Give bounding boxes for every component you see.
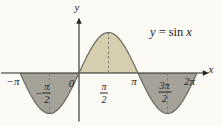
sine-plot xyxy=(0,0,222,126)
tick-label-three-pi-over-2: 3π2 xyxy=(158,81,171,104)
fraction-denominator: 2 xyxy=(44,93,49,104)
fraction-denominator: 2 xyxy=(162,93,167,104)
equation-argument: x xyxy=(186,26,192,39)
x-axis-label: x xyxy=(209,64,214,75)
fraction-numerator: π xyxy=(100,82,108,94)
tick-label-pi: π xyxy=(131,76,137,87)
equation-equals: = xyxy=(159,26,166,39)
origin-label: 0 xyxy=(69,78,75,89)
equation-lhs: y xyxy=(150,26,156,39)
fraction-numerator: 3π xyxy=(158,81,171,93)
fraction: π2 xyxy=(100,82,108,105)
tick-label-two-pi: 2π xyxy=(184,76,195,87)
equation-function: sin xyxy=(169,26,184,39)
equation-label: y = sin x xyxy=(150,26,192,39)
fraction-numerator: π xyxy=(43,81,51,93)
y-axis-label: y xyxy=(75,2,80,13)
tick-label-neg-pi: −π xyxy=(7,75,20,86)
y-axis-arrow-icon xyxy=(76,18,81,24)
minus-sign: − xyxy=(35,87,42,98)
fraction: π2 xyxy=(43,81,51,104)
fraction-denominator: 2 xyxy=(101,94,106,105)
tick-label-neg-pi-over-2: − π2 xyxy=(35,81,50,104)
sine-figure: y x y = sin x −π − π2 0 π2 π 3π2 2π xyxy=(0,0,222,126)
tick-label-pi-over-2: π2 xyxy=(100,82,108,105)
fraction: 3π2 xyxy=(158,81,171,104)
